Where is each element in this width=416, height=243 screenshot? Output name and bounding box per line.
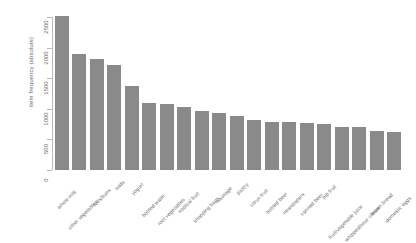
y-axis-tick-label: 500 — [42, 139, 50, 159]
bar-slot[interactable] — [351, 14, 369, 170]
y-axis-tick-label: 0 — [42, 170, 50, 190]
y-axis-tick-label: 2000 — [42, 48, 50, 68]
y-axis-tick-label-wrap: 1000 — [26, 105, 46, 113]
x-axis-label: whole milk — [73, 171, 95, 193]
x-axis-label: pip fruit — [333, 171, 350, 188]
y-axis-tick-label: 2500 — [42, 17, 50, 37]
bar[interactable] — [300, 123, 314, 170]
bar-slot[interactable] — [193, 14, 211, 170]
y-axis-tick-label: 1500 — [42, 78, 50, 98]
bar-slot[interactable] — [141, 14, 159, 170]
bar[interactable] — [55, 16, 69, 170]
bar-slot[interactable] — [281, 14, 299, 170]
bar-slot[interactable] — [386, 14, 404, 170]
y-axis-tick-label-wrap: 500 — [26, 135, 46, 143]
bar[interactable] — [72, 54, 86, 170]
bar-slot[interactable] — [228, 14, 246, 170]
bar[interactable] — [352, 127, 366, 170]
bar[interactable] — [387, 132, 401, 170]
bar[interactable] — [370, 131, 384, 170]
bar-slot[interactable] — [176, 14, 194, 170]
bar[interactable] — [160, 104, 174, 170]
bar-series — [53, 14, 403, 170]
bar[interactable] — [125, 86, 139, 170]
bar[interactable] — [107, 65, 121, 170]
bar[interactable] — [265, 122, 279, 170]
bar-slot[interactable] — [158, 14, 176, 170]
y-axis-tick-label-wrap: 1500 — [26, 74, 46, 82]
x-axis-label: pastry — [245, 171, 259, 185]
bar-slot[interactable] — [211, 14, 229, 170]
bar-slot[interactable] — [316, 14, 334, 170]
bar-slot[interactable] — [71, 14, 89, 170]
bar-slot[interactable] — [246, 14, 264, 170]
x-axis-label: citrus fruit — [265, 171, 286, 192]
y-axis-tick-label-wrap: 2000 — [26, 44, 46, 52]
bar[interactable] — [195, 111, 209, 170]
bar-slot[interactable] — [333, 14, 351, 170]
bar-slot[interactable] — [53, 14, 71, 170]
bar[interactable] — [177, 107, 191, 170]
x-axis-label: yogurt — [140, 171, 155, 186]
x-axis-labels: whole milkother vegetablesrolls/bunssoda… — [53, 171, 403, 233]
bar-slot[interactable] — [368, 14, 386, 170]
bar[interactable] — [282, 122, 296, 170]
y-axis-tick-label-wrap: 0 — [26, 166, 46, 174]
bar[interactable] — [212, 113, 226, 170]
bar-slot[interactable] — [88, 14, 106, 170]
y-axis-tick-label-wrap: 2500 — [26, 13, 46, 21]
bar[interactable] — [317, 124, 331, 170]
bar[interactable] — [90, 59, 104, 170]
bar[interactable] — [230, 116, 244, 170]
bar-slot[interactable] — [298, 14, 316, 170]
bar[interactable] — [335, 127, 349, 171]
bar-slot[interactable] — [263, 14, 281, 170]
bar-slot[interactable] — [123, 14, 141, 170]
plot-area — [53, 14, 403, 170]
y-axis-tick-label: 1000 — [42, 109, 50, 129]
bar[interactable] — [247, 120, 261, 170]
bar[interactable] — [142, 103, 156, 170]
bar-slot[interactable] — [106, 14, 124, 170]
